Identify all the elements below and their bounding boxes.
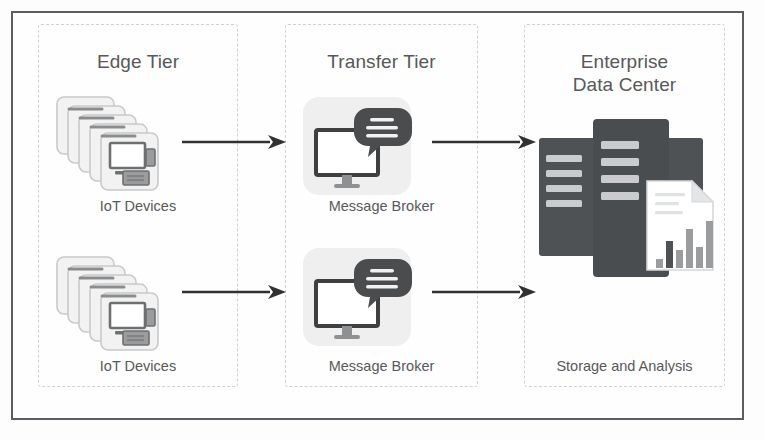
caption-iot-devices-top: IoT Devices bbox=[38, 198, 238, 215]
flow-arrow-edge-to-transfer-top bbox=[182, 132, 288, 152]
flow-arrow-transfer-to-enterprise-top bbox=[432, 132, 538, 152]
flow-arrow-edge-to-transfer-bottom bbox=[182, 282, 288, 302]
caption-storage-and-analysis: Storage and Analysis bbox=[524, 358, 725, 375]
message-broker-icon bbox=[302, 96, 424, 198]
caption-message-broker-top: Message Broker bbox=[285, 198, 478, 215]
server-rack-report-icon bbox=[535, 105, 725, 295]
iot-device-stack-icon bbox=[55, 255, 175, 355]
tier-title-enterprise: Enterprise Data Center bbox=[524, 50, 725, 96]
diagram-canvas: Edge Tier Transfer Tier Enterprise Data … bbox=[0, 0, 765, 440]
message-broker-icon bbox=[302, 247, 424, 349]
iot-device-stack-icon bbox=[55, 95, 175, 195]
caption-message-broker-bottom: Message Broker bbox=[285, 358, 478, 375]
tier-title-transfer: Transfer Tier bbox=[285, 50, 478, 73]
caption-iot-devices-bottom: IoT Devices bbox=[38, 358, 238, 375]
flow-arrow-transfer-to-enterprise-bottom bbox=[432, 282, 538, 302]
tier-title-edge: Edge Tier bbox=[38, 50, 238, 73]
